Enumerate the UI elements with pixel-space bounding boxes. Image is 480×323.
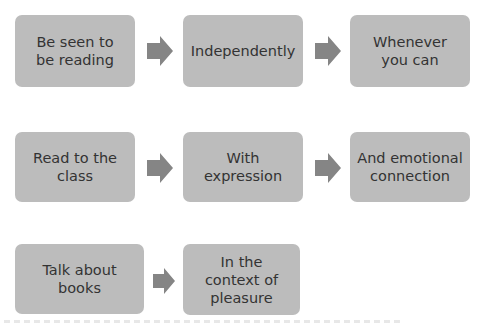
flow-box-be-seen-reading: Be seen to be reading	[15, 15, 135, 87]
box-label: Talk about books	[37, 261, 123, 297]
box-label: And emotional connection	[356, 149, 464, 185]
box-label: Be seen to be reading	[27, 33, 123, 69]
flow-box-whenever-you-can: Whenever you can	[350, 15, 470, 87]
right-arrow-icon	[147, 36, 173, 66]
right-arrow-icon	[315, 153, 341, 183]
flow-box-with-expression: With expression	[183, 132, 303, 202]
right-arrow-icon	[147, 153, 173, 183]
flow-box-read-to-class: Read to the class	[15, 132, 135, 202]
flow-box-talk-about-books: Talk about books	[15, 244, 144, 314]
flow-box-context-of-pleasure: In the context of pleasure	[183, 244, 300, 315]
box-label: With expression	[203, 149, 283, 185]
right-arrow-icon	[315, 36, 341, 66]
box-label: In the context of pleasure	[202, 253, 282, 307]
box-label: Read to the class	[30, 149, 120, 185]
box-label: Independently	[191, 42, 296, 60]
flow-box-independently: Independently	[183, 15, 303, 87]
box-label: Whenever you can	[360, 33, 460, 69]
right-arrow-icon	[153, 268, 175, 294]
flow-box-emotional-connection: And emotional connection	[350, 132, 470, 202]
